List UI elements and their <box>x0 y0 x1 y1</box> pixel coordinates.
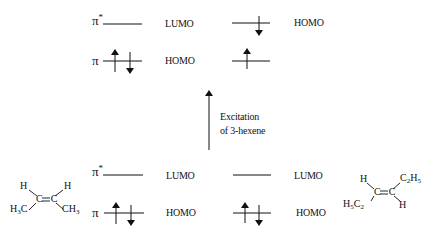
bottom-right-lumo-label: LUMO <box>294 170 323 181</box>
cis-h-right: H <box>64 180 71 191</box>
bottom-left-pi-label: π <box>92 205 99 221</box>
excitation-label-line1: Excitation <box>220 110 265 124</box>
excitation-label: Excitation of 3-hexene <box>220 110 265 138</box>
trans-h-top: H <box>360 173 367 184</box>
trans-top-group: C2H5 <box>400 172 421 183</box>
cis-cc: C C <box>36 193 58 204</box>
top-left-pi-label: π <box>92 53 99 69</box>
trans-cc: C C <box>374 186 396 197</box>
cis-right-group: CH3 <box>62 203 79 214</box>
top-left-homo-label: HOMO <box>165 55 195 66</box>
cis-left-group: H3C <box>10 203 27 214</box>
trans-h-bottom: H <box>399 199 406 210</box>
bottom-right-homo-label: HOMO <box>296 207 326 218</box>
bottom-left-lumo-label: LUMO <box>166 170 195 181</box>
top-left-pistar-label: π* <box>92 13 103 29</box>
cis-h-left: H <box>20 180 27 191</box>
bottom-left-pistar-label: π* <box>92 164 103 180</box>
top-right-homo-label: HOMO <box>294 17 324 28</box>
excitation-label-line2: of 3-hexene <box>220 124 265 138</box>
bottom-left-homo-label: HOMO <box>166 207 196 218</box>
orbital-diagram-graphics <box>0 0 436 232</box>
trans-bottom-group: H5C2 <box>343 198 364 209</box>
top-left-lumo-label: LUMO <box>165 18 194 29</box>
